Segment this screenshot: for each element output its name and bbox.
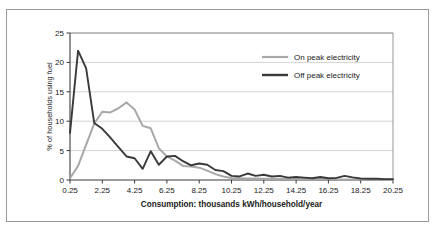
x-axis-title: Consumption: thousands kWh/household/yea… [141, 200, 323, 209]
y-tick-label: 0 [60, 176, 65, 185]
x-tick-label: 10.25 [221, 186, 242, 195]
x-tick-label: 12.25 [254, 186, 275, 195]
x-tick-label: 14.25 [286, 186, 307, 195]
y-tick-label: 5 [60, 147, 65, 156]
line-chart: 0510152025 0.252.254.256.258.2510.2512.2… [0, 0, 436, 232]
x-tick-label: 16.25 [318, 186, 339, 195]
legend-label-1: Off peak electricity [294, 71, 360, 80]
y-tick-label: 20 [55, 58, 64, 67]
legend-label-0: On peak electricity [294, 53, 360, 62]
x-axis [70, 180, 393, 184]
y-axis [67, 33, 71, 180]
y-tick-labels: 0510152025 [55, 29, 64, 185]
y-tick-label: 25 [55, 29, 64, 38]
x-tick-labels: 0.252.254.256.258.2510.2512.2514.2516.25… [62, 186, 403, 195]
x-tick-label: 18.25 [351, 186, 372, 195]
x-tick-label: 20.25 [383, 186, 404, 195]
x-tick-label: 2.25 [95, 186, 111, 195]
x-tick-label: 0.25 [62, 186, 78, 195]
y-tick-label: 15 [55, 88, 64, 97]
x-tick-label: 4.25 [127, 186, 143, 195]
y-axis-title: % of households using fuel [45, 62, 54, 151]
y-tick-label: 10 [55, 117, 64, 126]
x-tick-label: 8.25 [191, 186, 207, 195]
x-tick-label: 6.25 [159, 186, 175, 195]
figure-root: 0510152025 0.252.254.256.258.2510.2512.2… [0, 0, 436, 232]
